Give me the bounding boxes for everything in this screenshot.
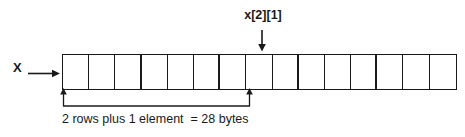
array-cell xyxy=(115,55,141,89)
arrow-right-icon xyxy=(28,69,60,78)
array-cell xyxy=(168,55,194,89)
array-cell xyxy=(246,55,272,89)
array-cell xyxy=(220,55,246,89)
array-cell xyxy=(194,55,220,89)
array-cell xyxy=(63,55,89,89)
pointer-label-x: X xyxy=(13,60,22,75)
array-cell xyxy=(403,55,429,89)
array-cell xyxy=(377,55,403,89)
array-cell xyxy=(299,55,325,89)
array-cell xyxy=(325,55,351,89)
array-cell xyxy=(142,55,168,89)
measurement-bracket xyxy=(58,88,258,110)
arrow-down-icon xyxy=(256,30,268,52)
annotation-label: x[2][1] xyxy=(228,8,298,22)
array-cell xyxy=(430,55,456,89)
array-memory-layout-diagram: X x[2][1] 2 rows plus 1 element = 28 byt… xyxy=(0,0,465,137)
array-cell xyxy=(351,55,377,89)
measurement-caption: 2 rows plus 1 element = 28 bytes xyxy=(62,112,249,126)
array-element-annotation: x[2][1] xyxy=(228,8,298,22)
memory-array xyxy=(62,54,457,90)
array-cell xyxy=(273,55,299,89)
array-cell xyxy=(89,55,115,89)
